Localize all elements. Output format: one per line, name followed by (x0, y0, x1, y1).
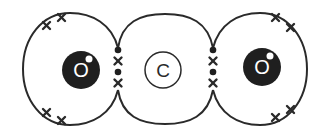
electron-dot (115, 69, 122, 76)
atom-label-carbon: C (156, 60, 170, 81)
nucleus-oxygen-right: O (243, 48, 281, 86)
electron-cross (58, 117, 65, 124)
electron-cross (43, 22, 50, 29)
electron-dot (210, 69, 217, 76)
electron-cross (43, 109, 50, 116)
nucleus-carbon: C (145, 52, 181, 88)
nucleus-oxygen-left: O (62, 51, 100, 89)
electron-cross (210, 80, 217, 87)
electron-cross (58, 14, 65, 21)
electron-dot (115, 47, 122, 54)
electron-cross (272, 114, 279, 121)
atom-label-oxygen-left: O (73, 59, 89, 81)
bond-electrons-right (210, 47, 217, 87)
electron-cross (115, 58, 122, 65)
bond-electrons-left (115, 47, 122, 87)
atom-label-oxygen-right: O (254, 56, 270, 78)
electron-dot (210, 47, 217, 54)
electron-cross (210, 58, 217, 65)
lone-pair-oxygen-right-top (272, 14, 294, 31)
electron-cross (115, 80, 122, 87)
co2-dot-cross-diagram: O C O (0, 0, 325, 133)
